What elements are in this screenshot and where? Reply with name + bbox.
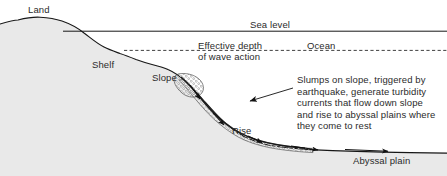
label-slope: Slope [152, 72, 177, 83]
label-sea-level: Sea level [250, 19, 290, 30]
ocean-margin-diagram: Land Sea level Ocean Effective depth of … [0, 0, 447, 176]
label-shelf: Shelf [92, 59, 114, 70]
label-land: Land [28, 4, 50, 15]
label-abyssal-plain: Abyssal plain [353, 155, 410, 166]
slump-note-leader-line [250, 88, 293, 101]
label-effective-depth-of-wave-action: Effective depth of wave action [198, 40, 262, 62]
label-rise: Rise [232, 125, 251, 136]
annotation-slump-note: Slumps on slope, triggered by earthquake… [297, 74, 435, 132]
label-ocean: Ocean [307, 40, 336, 51]
